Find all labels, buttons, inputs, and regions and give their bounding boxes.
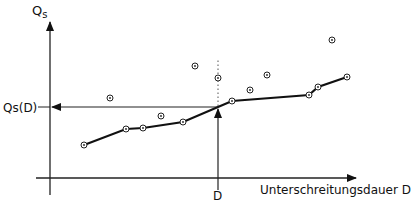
x-axis-label: Unterschreitungsdauer D — [260, 183, 411, 197]
diagram-canvas: Qs Qs(D) D Unterschreitungsdauer D — [0, 0, 418, 203]
y-axis-label: Qs — [32, 3, 47, 20]
d-marker-label: D — [213, 189, 222, 203]
diagram-svg: Qs Qs(D) D Unterschreitungsdauer D — [0, 0, 418, 203]
qs-d-label: Qs(D) — [3, 101, 37, 115]
curve-points — [81, 74, 350, 148]
duration-curve — [84, 77, 347, 145]
